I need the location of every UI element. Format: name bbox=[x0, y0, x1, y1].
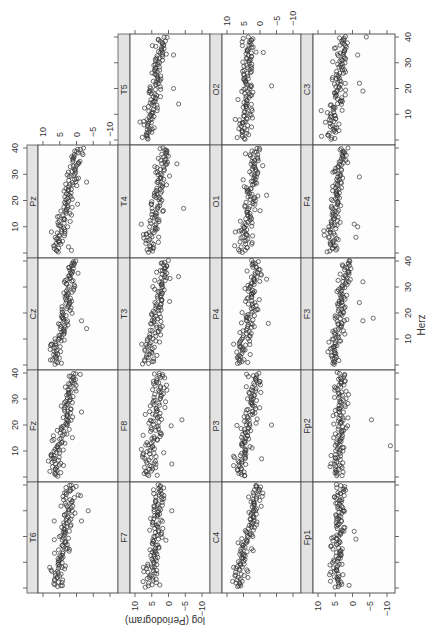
y-tick-label: −10 bbox=[105, 122, 115, 137]
panel-fz: Fz bbox=[27, 370, 118, 482]
panel-label: F7 bbox=[119, 532, 129, 543]
x-tick-label: 10 bbox=[403, 109, 413, 119]
x-tick-label: 20 bbox=[403, 308, 413, 318]
panels-layer: T5O2C3PzT4O1F4CzT3P4F3FzF8P3Fp2T6F7C4Fp1 bbox=[27, 34, 395, 593]
panel-plot-area bbox=[222, 145, 301, 258]
y-tick-label: −5 bbox=[180, 601, 190, 611]
panel-plot-area bbox=[313, 258, 395, 370]
y-tick-label: −5 bbox=[88, 127, 98, 137]
panel-f4: F4 bbox=[301, 145, 395, 258]
panel-label: Fp1 bbox=[302, 530, 312, 546]
panel-label: F4 bbox=[302, 196, 312, 207]
y-tick-label: 5 bbox=[239, 21, 249, 26]
y-tick-label: 5 bbox=[147, 601, 157, 606]
panel-label: C3 bbox=[302, 84, 312, 96]
panel-label: T3 bbox=[119, 309, 129, 320]
panel-label: P4 bbox=[211, 308, 221, 319]
panel-label: O1 bbox=[211, 195, 221, 207]
panel-label: T6 bbox=[28, 532, 38, 543]
panel-f3: F3 bbox=[301, 258, 395, 370]
panel-t5: T5 bbox=[118, 34, 210, 145]
x-tick-label: 20 bbox=[10, 195, 20, 205]
panel-c3: C3 bbox=[301, 34, 395, 145]
panel-plot-area bbox=[313, 34, 395, 145]
panel-label: Pz bbox=[28, 196, 38, 207]
panel-label: F8 bbox=[119, 421, 129, 432]
y-tick-label: 10 bbox=[38, 127, 48, 137]
y-tick-label: 0 bbox=[164, 601, 174, 606]
panel-label: Cz bbox=[28, 308, 38, 319]
y-axis-title: log (Periodogram) bbox=[125, 615, 205, 626]
y-tick-label: 10 bbox=[130, 601, 140, 611]
panel-plot-area bbox=[38, 258, 118, 370]
x-axis-title: Herz bbox=[416, 314, 427, 335]
y-tick-label: −10 bbox=[197, 601, 207, 616]
panel-label: Fp2 bbox=[302, 418, 312, 434]
panel-plot-area bbox=[130, 258, 210, 370]
y-tick-label: 5 bbox=[55, 132, 65, 137]
x-tick-label: 30 bbox=[10, 394, 20, 404]
panel-plot-area bbox=[38, 482, 118, 593]
panel-fp2: Fp2 bbox=[301, 370, 395, 482]
x-tick-label: 40 bbox=[403, 32, 413, 42]
panel-t4: T4 bbox=[118, 145, 210, 258]
panel-label: O2 bbox=[211, 83, 221, 95]
panel-plot-area bbox=[313, 370, 395, 482]
panel-plot-area bbox=[130, 482, 210, 593]
x-tick-label: 10 bbox=[403, 334, 413, 344]
y-tick-label: 5 bbox=[330, 601, 340, 606]
panel-c4: C4 bbox=[210, 482, 301, 593]
panel-o1: O1 bbox=[210, 145, 301, 258]
panel-f8: F8 bbox=[118, 370, 210, 482]
panel-plot-area bbox=[130, 34, 210, 145]
panel-label: F3 bbox=[302, 309, 312, 320]
y-tick-label: 0 bbox=[255, 21, 265, 26]
panel-t6: T6 bbox=[27, 482, 118, 593]
panel-plot-area bbox=[222, 34, 301, 145]
x-tick-label: 20 bbox=[403, 83, 413, 93]
panel-plot-area bbox=[38, 370, 118, 482]
panel-label: C4 bbox=[211, 532, 221, 544]
y-tick-label: 0 bbox=[348, 601, 358, 606]
panel-label: P3 bbox=[211, 420, 221, 431]
panel-plot-area bbox=[313, 145, 395, 258]
y-tick-label: −5 bbox=[365, 601, 375, 611]
x-tick-label: 40 bbox=[10, 368, 20, 378]
x-tick-label: 30 bbox=[10, 169, 20, 179]
panel-t3: T3 bbox=[118, 258, 210, 370]
panel-pz: Pz bbox=[27, 145, 118, 258]
panel-label: T5 bbox=[119, 84, 129, 95]
panel-plot-area bbox=[130, 145, 210, 258]
x-tick-label: 10 bbox=[10, 222, 20, 232]
x-tick-label: 10 bbox=[10, 446, 20, 456]
panel-p3: P3 bbox=[210, 370, 301, 482]
panel-plot-area bbox=[222, 258, 301, 370]
panel-f7: F7 bbox=[118, 482, 210, 593]
y-tick-label: 10 bbox=[313, 601, 323, 611]
panel-o2: O2 bbox=[210, 34, 301, 145]
x-tick-label: 20 bbox=[10, 420, 20, 430]
panel-plot-area bbox=[313, 482, 395, 593]
panel-p4: P4 bbox=[210, 258, 301, 370]
x-tick-label: 40 bbox=[10, 143, 20, 153]
y-tick-label: −10 bbox=[382, 601, 392, 616]
panel-cz: Cz bbox=[27, 258, 118, 370]
y-tick-label: −10 bbox=[288, 11, 298, 26]
y-tick-label: 0 bbox=[72, 132, 82, 137]
trellis-scatter-figure: T5O2C3PzT4O1F4CzT3P4F3FzF8P3Fp2T6F7C4Fp1… bbox=[0, 0, 440, 644]
x-tick-label: 30 bbox=[403, 58, 413, 68]
panel-label: Fz bbox=[28, 421, 38, 431]
x-tick-label: 40 bbox=[403, 256, 413, 266]
x-tick-label: 30 bbox=[403, 282, 413, 292]
panel-fp1: Fp1 bbox=[301, 482, 395, 593]
y-tick-label: 10 bbox=[222, 16, 232, 26]
panel-label: T4 bbox=[119, 196, 129, 207]
y-tick-label: −5 bbox=[272, 16, 282, 26]
